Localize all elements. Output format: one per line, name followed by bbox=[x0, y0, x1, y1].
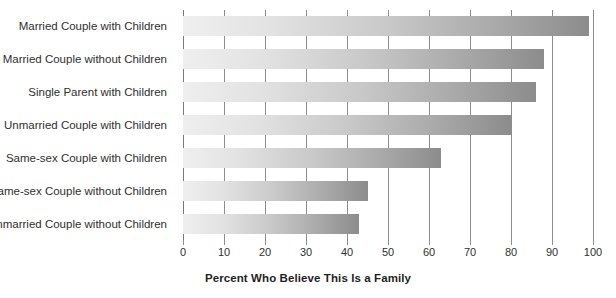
tick-mark-50 bbox=[388, 240, 389, 245]
category-label: Same-sex Couple without Children bbox=[0, 185, 167, 197]
tick-label-20: 20 bbox=[259, 246, 271, 258]
tick-mark-90 bbox=[552, 240, 553, 245]
tick-mark-10 bbox=[224, 240, 225, 245]
category-label: Single Parent with Children bbox=[28, 86, 167, 98]
bar bbox=[183, 115, 511, 135]
tick-mark-100 bbox=[593, 240, 594, 245]
bar bbox=[183, 181, 368, 201]
tick-label-10: 10 bbox=[218, 246, 230, 258]
bar bbox=[183, 82, 536, 102]
gridline-100 bbox=[593, 10, 594, 240]
tick-label-80: 80 bbox=[505, 246, 517, 258]
tick-label-30: 30 bbox=[300, 246, 312, 258]
bar bbox=[183, 214, 359, 234]
bar-series bbox=[183, 10, 593, 240]
tick-label-100: 100 bbox=[584, 246, 602, 258]
tick-label-90: 90 bbox=[546, 246, 558, 258]
x-axis-tick-labels: 0102030405060708090100 bbox=[183, 246, 593, 262]
tick-label-50: 50 bbox=[382, 246, 394, 258]
x-axis-title: Percent Who Believe This Is a Family bbox=[0, 272, 616, 284]
bar bbox=[183, 49, 544, 69]
plot-area bbox=[183, 10, 593, 240]
tick-mark-30 bbox=[306, 240, 307, 245]
category-label: Married Couple with Children bbox=[19, 20, 167, 32]
tick-mark-80 bbox=[511, 240, 512, 245]
tick-label-70: 70 bbox=[464, 246, 476, 258]
tick-mark-60 bbox=[429, 240, 430, 245]
category-label: Married Couple without Children bbox=[3, 53, 167, 65]
tick-label-0: 0 bbox=[180, 246, 186, 258]
bar-chart: Married Couple with ChildrenMarried Coup… bbox=[0, 0, 616, 298]
category-label: Unmarried Couple with Children bbox=[4, 119, 167, 131]
category-axis-labels: Married Couple with ChildrenMarried Coup… bbox=[0, 10, 176, 240]
category-label: Same-sex Couple with Children bbox=[6, 152, 167, 164]
tick-mark-40 bbox=[347, 240, 348, 245]
bar bbox=[183, 148, 441, 168]
tick-mark-70 bbox=[470, 240, 471, 245]
bar bbox=[183, 16, 589, 36]
tick-label-40: 40 bbox=[341, 246, 353, 258]
tick-mark-20 bbox=[265, 240, 266, 245]
tick-label-60: 60 bbox=[423, 246, 435, 258]
category-label: Unmarried Couple without Children bbox=[0, 218, 167, 230]
tick-mark-0 bbox=[183, 240, 184, 245]
